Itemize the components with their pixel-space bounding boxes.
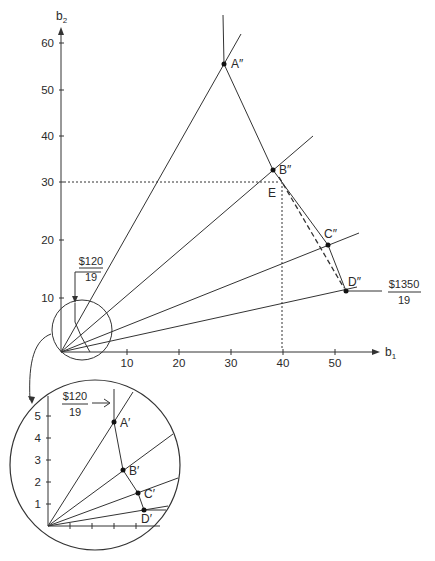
diagram-canvas: b2 b1 60 50 40 30 20 10 10 20 30 40 50 A…: [0, 0, 435, 561]
ray-a: [61, 34, 241, 352]
y-tick-60: 60: [41, 37, 54, 49]
connector-curve: [30, 334, 51, 400]
connector-arrow-icon: [28, 396, 35, 404]
y-tick-40: 40: [41, 130, 54, 142]
inset-ray-b: [48, 434, 173, 526]
x-tick-30: 30: [225, 357, 238, 369]
label-d2: D″: [348, 275, 362, 289]
point-a2: [222, 62, 227, 67]
inset-y-tick-3: 3: [35, 454, 41, 466]
arrow-down-icon: [72, 296, 78, 303]
y-tick-30: 30: [41, 176, 54, 188]
budget-low-denominator: 19: [85, 271, 97, 283]
x-tick-10: 10: [121, 357, 134, 369]
point-a1: [112, 420, 117, 425]
budget-high-numerator: $1350: [389, 278, 420, 290]
y-axis-label: b2: [56, 9, 68, 25]
x-axis-label: b1: [385, 345, 397, 361]
budget-frontier: [223, 15, 382, 291]
point-b2: [271, 168, 276, 173]
main-chart: [28, 15, 421, 404]
y-tick-50: 50: [41, 84, 54, 96]
inset-ray-a: [48, 392, 133, 526]
ray-c: [61, 233, 359, 352]
y-tick-20: 20: [41, 234, 54, 246]
label-d1: D′: [141, 512, 153, 526]
inset-y-tick-1: 1: [35, 498, 41, 510]
budget-low-numerator: $120: [79, 255, 103, 267]
label-c1: C′: [144, 487, 156, 501]
y-tick-10: 10: [41, 292, 54, 304]
label-b2: B″: [279, 163, 292, 177]
inset-y-tick-5: 5: [35, 410, 41, 422]
x-tick-20: 20: [173, 357, 186, 369]
point-c1: [136, 491, 141, 496]
inset-budget-numerator: $120: [63, 390, 87, 402]
x-tick-50: 50: [329, 357, 342, 369]
ray-b: [61, 136, 313, 352]
label-c2: C″: [324, 227, 338, 241]
x-axis-arrow-icon: [372, 349, 380, 355]
point-c2: [326, 243, 331, 248]
inset-y-tick-2: 2: [35, 476, 41, 488]
inset-y-tick-4: 4: [35, 432, 42, 444]
label-a2: A″: [231, 57, 244, 71]
label-e: E: [268, 186, 276, 200]
ray-d: [61, 287, 357, 352]
budget-high-denominator: 19: [398, 294, 410, 306]
x-tick-40: 40: [277, 357, 290, 369]
label-b1: B′: [129, 464, 140, 478]
inset-labels: 5 4 3 2 1 $120 19 A′ B′ C′ D′: [35, 390, 156, 526]
inset-ray-c: [48, 478, 178, 526]
point-d2: [344, 289, 349, 294]
label-a1: A′: [120, 416, 131, 430]
inset-budget-denominator: 19: [69, 406, 81, 418]
small-frontier: [75, 303, 90, 352]
y-axis-arrow-icon: [58, 27, 64, 35]
point-b1: [121, 468, 126, 473]
